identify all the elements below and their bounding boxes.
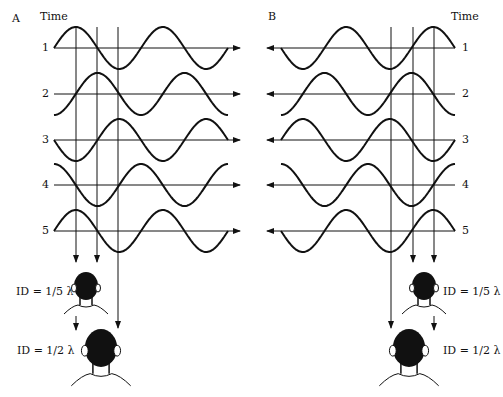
interference-diagram [0, 0, 503, 397]
listener-head-icon [64, 272, 108, 314]
listener-head-icon [379, 329, 438, 386]
listener-heads-a [64, 272, 446, 386]
listener-head-icon [402, 272, 446, 314]
listener-head-icon [71, 329, 130, 386]
